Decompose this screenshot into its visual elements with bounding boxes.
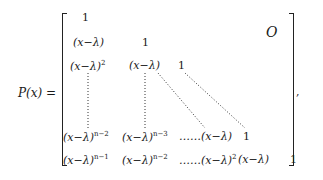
ellipsis-dotted-lines: [0, 0, 323, 180]
